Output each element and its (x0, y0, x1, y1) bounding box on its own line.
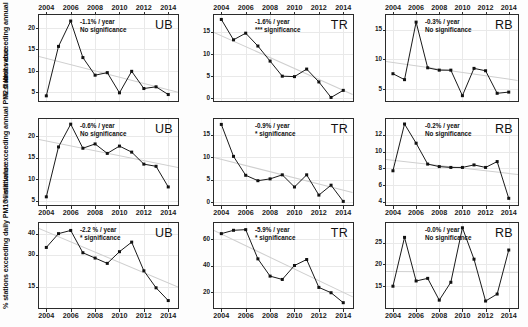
xtick-mark (168, 309, 169, 312)
xtick-mark (416, 12, 417, 15)
ytick-label: 4 (366, 197, 382, 204)
data-point (130, 241, 133, 244)
ytick-mark (36, 158, 39, 159)
xtick-mark (270, 206, 271, 209)
data-point (269, 60, 272, 63)
xtick-mark (294, 309, 295, 312)
panel-r2c3: 4681012200420062008201020122014RB-0.2% /… (385, 118, 519, 206)
data-point (461, 166, 464, 169)
data-point (155, 85, 158, 88)
data-point (449, 281, 452, 284)
trend-rate-label: -2.2 % / year (80, 226, 121, 234)
ytick-label: 10 (366, 147, 382, 154)
data-point (118, 250, 121, 253)
ytick-mark (36, 255, 39, 256)
xtick-label: 2004 (33, 311, 59, 320)
ytick-label: 15 (194, 130, 210, 137)
trend-rate-label: -5.9% / year (255, 226, 296, 234)
data-point (69, 123, 72, 126)
data-point (45, 94, 48, 97)
xtick-label: 2010 (281, 311, 307, 320)
xtick-label: 2004 (33, 208, 59, 217)
ytick-mark (383, 243, 386, 244)
ytick-label: 5 (19, 88, 35, 95)
xtick-mark (294, 206, 295, 209)
data-point (81, 56, 84, 59)
ytick-label: 8 (366, 164, 382, 171)
xtick-mark (46, 206, 47, 209)
data-point (473, 163, 476, 166)
trend-rate-label: -0.3% / year (425, 18, 472, 26)
ytick-label: 20 (366, 260, 382, 267)
significance-label: No significance (425, 26, 472, 34)
data-point (269, 275, 272, 278)
data-point (403, 236, 406, 239)
xtick-mark (486, 206, 487, 209)
data-point (449, 166, 452, 169)
data-point (57, 45, 60, 48)
panel-r3c3: 152025200420062008201020122014RB-0.0% / … (385, 222, 519, 309)
xtick-mark (221, 309, 222, 312)
ytick-mark (211, 54, 214, 55)
ytick-mark (211, 157, 214, 158)
data-point (94, 74, 97, 77)
xtick-label: 2008 (257, 311, 283, 320)
trend-rate-label: -0.9% / year (255, 122, 296, 130)
trend-rate-label: -1.1% / year (80, 18, 127, 26)
significance-label: * significance (80, 234, 121, 242)
panel-r1c3: 51015200420062008201020122014RB-0.3% / y… (385, 14, 519, 102)
data-point (57, 145, 60, 148)
ytick-mark (211, 266, 214, 267)
ytick-label: 60 (194, 235, 210, 242)
significance-label: No significance (80, 26, 127, 34)
xtick-mark (246, 206, 247, 209)
trend-annotation-r2c1: -0.6% / yearNo significance (80, 122, 127, 138)
data-point (220, 123, 223, 126)
xtick-label: 2014 (496, 311, 522, 320)
ytick-mark (383, 286, 386, 287)
xtick-label: 2012 (473, 311, 499, 320)
xtick-mark (168, 206, 169, 209)
data-point (142, 269, 145, 272)
xtick-label: 2012 (473, 208, 499, 217)
data-point (461, 94, 464, 97)
ytick-mark (211, 135, 214, 136)
panel-code-r2c1: UB (155, 122, 173, 136)
data-point (69, 20, 72, 23)
panel-code-r1c2: TR (331, 18, 348, 32)
ytick-label: 15 (366, 25, 382, 32)
data-point (507, 249, 510, 252)
ytick-label: 15 (194, 27, 210, 34)
panel-code-r2c3: RB (495, 122, 513, 136)
data-point (94, 257, 97, 260)
ytick-label: 0 (194, 94, 210, 101)
xtick-label: 2006 (233, 208, 259, 217)
trend-rate-label: -0.6% / year (80, 122, 127, 130)
ytick-label: 6 (366, 181, 382, 188)
ytick-label: 15 (366, 282, 382, 289)
xtick-mark (509, 309, 510, 312)
xtick-mark (319, 309, 320, 312)
ytick-label: 10 (194, 50, 210, 57)
xtick-mark (439, 206, 440, 209)
ytick-mark (36, 49, 39, 50)
data-point (293, 264, 296, 267)
xtick-label: 2014 (155, 208, 181, 217)
xtick-label: 2014 (330, 311, 356, 320)
xtick-mark (119, 12, 120, 15)
data-point (317, 80, 320, 83)
data-point (81, 251, 84, 254)
trend-annotation-r3c2: -5.9% / year* significance (255, 226, 296, 242)
xtick-mark (95, 309, 96, 312)
xtick-mark (46, 309, 47, 312)
data-point (484, 166, 487, 169)
data-point (256, 257, 259, 260)
xtick-mark (95, 12, 96, 15)
xtick-mark (343, 206, 344, 209)
xtick-label: 2014 (155, 311, 181, 320)
ytick-mark (383, 135, 386, 136)
data-point (256, 45, 259, 48)
ytick-mark (383, 264, 386, 265)
xtick-mark (343, 309, 344, 312)
ytick-mark (383, 89, 386, 90)
